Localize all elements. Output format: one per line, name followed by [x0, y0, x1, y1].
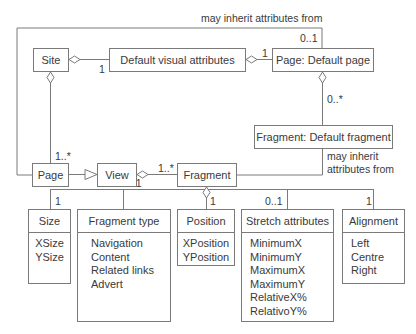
class-alignment: Alignment Left Centre Right: [342, 209, 405, 284]
node-fragment-default-label: Fragment: Default fragment: [255, 126, 392, 148]
mult-view-fragment: 1..*: [158, 162, 174, 175]
mult-site-page: 1..*: [55, 150, 71, 163]
attr: YSize: [29, 251, 70, 265]
attr: YPosition: [178, 251, 234, 265]
attr: Centre: [351, 251, 404, 265]
attr: Content: [91, 251, 170, 265]
inherit-label-top: may inherit attributes from: [201, 12, 322, 25]
class-alignment-title: Alignment: [343, 210, 404, 233]
node-view: View: [97, 163, 137, 187]
attr: Left: [351, 237, 404, 251]
class-position-title: Position: [178, 210, 234, 233]
mult-site-dva: 1: [99, 63, 105, 76]
mult-alignment: 1: [366, 195, 372, 208]
attr: XPosition: [178, 237, 234, 251]
node-page: Page: [32, 163, 69, 187]
class-size-title: Size: [29, 210, 70, 233]
class-stretch-title: Stretch attributes: [242, 210, 333, 233]
node-fragment-label: Fragment: [178, 164, 236, 186]
node-view-label: View: [98, 164, 136, 186]
node-page-default-page: Page: Default page: [272, 48, 374, 72]
mult-pagedefault-fragdefault: 0..*: [327, 93, 343, 106]
class-fragment-type-title: Fragment type: [78, 210, 170, 233]
attr: MaximumX: [250, 264, 333, 278]
class-size: Size XSize YSize: [28, 209, 71, 284]
attr: XSize: [29, 237, 70, 251]
attr: Related links: [91, 264, 170, 278]
mult-stretch: 0..1: [265, 195, 283, 208]
attr: RelativoY%: [250, 305, 333, 319]
aggregation-diamond-site-page: [47, 72, 54, 83]
class-position: Position XPosition YPosition: [177, 209, 235, 266]
mult-position: 1: [210, 195, 216, 208]
node-page-default-label: Page: Default page: [273, 49, 373, 71]
mult-size: 1: [55, 195, 61, 208]
node-dva-label: Default visual attributes: [110, 49, 245, 71]
mult-inherit-pagedefault: 0..1: [300, 32, 318, 45]
attr: Right: [351, 264, 404, 278]
node-fragment-default-fragment: Fragment: Default fragment: [254, 125, 393, 149]
aggregation-diamond-dva-page: [246, 56, 257, 63]
node-site-label: Site: [34, 49, 68, 71]
node-page-label: Page: [33, 164, 68, 186]
attr: Navigation: [91, 237, 170, 251]
aggregation-diamond-pagedefault: [319, 72, 326, 83]
attr: RelativeX%: [250, 291, 333, 305]
class-stretch-attributes: Stretch attributes MinimumX MinimumY Max…: [241, 209, 334, 322]
node-default-visual-attributes: Default visual attributes: [109, 48, 246, 72]
node-site: Site: [33, 48, 69, 72]
inherit-label-side-1: may inherit: [327, 150, 378, 163]
attr: MinimumY: [250, 251, 333, 265]
attr: MinimumX: [250, 237, 333, 251]
class-fragment-type: Fragment type Navigation Content Related…: [77, 209, 171, 322]
attr: MaximumY: [250, 278, 333, 292]
aggregation-diamond-fragment: [203, 187, 210, 198]
node-fragment: Fragment: [177, 163, 237, 187]
aggregation-diamond-site-dva: [69, 56, 80, 63]
attr: Advert: [91, 278, 170, 292]
mult-dva-pagedefault: 1: [262, 47, 268, 60]
inherit-label-side-2: attributes from: [327, 163, 394, 176]
generalization-triangle: [85, 170, 97, 180]
